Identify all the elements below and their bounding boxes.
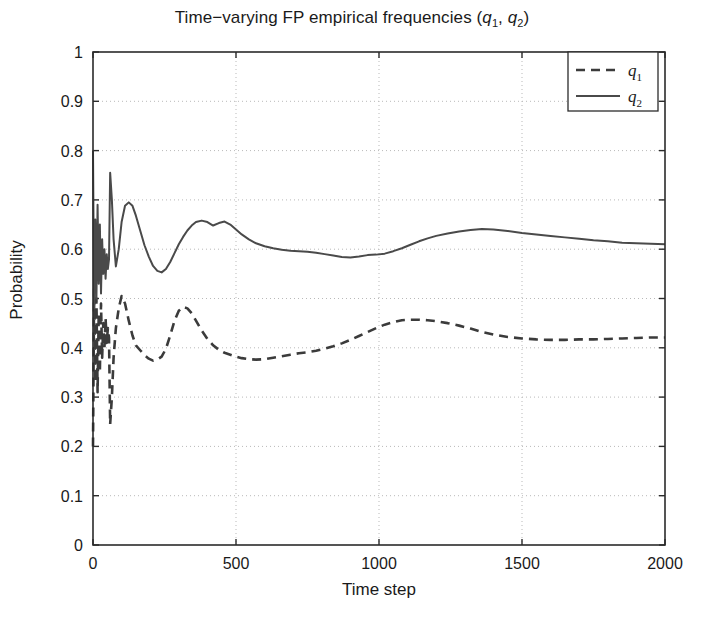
plot-svg: 00.10.20.30.40.50.60.70.80.9105001000150… xyxy=(0,0,704,622)
series-line-q1 xyxy=(93,289,665,447)
x-tick-label: 0 xyxy=(89,555,98,572)
y-tick-label: 1 xyxy=(74,44,83,61)
legend-box: q1q2 xyxy=(568,52,658,111)
legend-subscript-q1: 1 xyxy=(637,71,643,83)
x-tick-label: 2000 xyxy=(647,555,683,572)
y-tick-label: 0.4 xyxy=(61,340,83,357)
y-tick-label: 0.1 xyxy=(61,488,83,505)
x-tick-label: 1000 xyxy=(361,555,397,572)
y-tick-label: 0.3 xyxy=(61,389,83,406)
tick-labels: 00.10.20.30.40.50.60.70.80.9105001000150… xyxy=(61,44,683,572)
x-tick-label: 500 xyxy=(223,555,250,572)
y-tick-label: 0.7 xyxy=(61,192,83,209)
x-tick-label: 1500 xyxy=(504,555,540,572)
legend-subscript-q2: 2 xyxy=(637,97,643,109)
y-tick-label: 0 xyxy=(74,537,83,554)
y-tick-label: 0.9 xyxy=(61,93,83,110)
y-tick-label: 0.5 xyxy=(61,291,83,308)
grid-lines xyxy=(94,53,664,544)
y-tick-label: 0.2 xyxy=(61,438,83,455)
y-tick-label: 0.6 xyxy=(61,241,83,258)
legend-frame xyxy=(568,52,658,111)
figure-container: Time−varying FP empirical frequencies (q… xyxy=(0,0,704,622)
y-tick-label: 0.8 xyxy=(61,143,83,160)
